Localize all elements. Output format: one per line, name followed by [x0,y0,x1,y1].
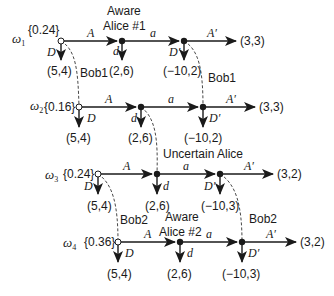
payoff-terminal: (3,3) [240,34,265,48]
alice-node [138,104,144,110]
edge-label-d: d [163,179,170,193]
edge-label-D: D [86,111,96,125]
info-set-label-bob2-left: Bob2 [120,213,148,227]
payoff-D-prime: (−10,2) [163,64,201,78]
row-omega-4: ω4 {0.36} A D (5,4) Aware Alice #2 a d (… [63,210,325,281]
edge-label-D-prime: D′ [203,179,216,193]
alice-label-line2: Alice #2 [159,225,202,239]
info-set-label-uncertain-alice: Uncertain Alice [163,147,243,161]
alice-node [177,239,183,245]
edge-label-D-prime: D′ [208,111,221,125]
edge-label-D: D [83,179,93,193]
edge-label-A: A [143,227,152,241]
edge-label-D-prime: D′ [247,246,260,260]
state-label: ω3 [45,167,58,184]
info-set-label-bob1-left: Bob1 [80,66,108,80]
row-omega-2: ω2 {0.16} A D (5,4) a d (2,6) A′ D′ (−10… [30,92,284,145]
state-label: ω1 [12,31,25,48]
state-prob: {0.24} [28,23,59,37]
game-tree-diagram: Bob1 Bob1 Uncertain Alice Bob2 Bob2 ω1 {… [0,0,334,296]
bob-node [181,38,187,44]
nature-node [95,171,101,177]
nature-node [76,104,82,110]
payoff-D-prime: (−10,2) [184,131,222,145]
payoff-terminal: (3,2) [277,167,302,181]
edge-label-A-prime: A′ [225,92,236,106]
alice-node [119,38,125,44]
payoff-D: (5,4) [107,267,132,281]
nature-node [115,239,121,245]
bob-node [239,239,245,245]
alice-node [154,171,160,177]
edge-label-d: d [131,111,138,125]
edge-label-d: d [187,246,194,260]
payoff-D: (5,4) [87,199,112,213]
payoff-d: (2,6) [167,267,192,281]
edge-label-A: A [122,159,131,173]
payoff-D: (5,4) [47,64,72,78]
payoff-terminal: (3,3) [259,100,284,114]
payoff-d: (2,6) [109,64,134,78]
edge-label-D: D [124,246,134,260]
row-omega-1: ω1 {0.24} A D (5,4) Aware Alice #1 a d (… [12,4,265,78]
state-label: ω4 [63,235,76,252]
state-prob: {0.16} [44,100,75,114]
payoff-terminal: (3,2) [300,235,325,249]
payoff-D: (5,4) [66,131,91,145]
edge-label-A: A [86,26,95,40]
edge-label-A-prime: A′ [265,227,276,241]
payoff-d: (2,6) [128,131,153,145]
edge-label-D-prime: D′ [168,45,181,59]
edge-label-a: a [168,92,174,106]
bob-node [200,104,206,110]
payoff-D-prime: (−10,3) [222,267,260,281]
edge-label-A-prime: A′ [206,26,217,40]
state-prob: {0.36} [84,235,115,249]
state-label: ω2 [30,98,43,115]
edge-label-a: a [183,159,189,173]
edge-label-A: A [104,92,113,106]
info-set-label-bob2-right: Bob2 [249,212,277,226]
info-set-label-bob1-right: Bob1 [208,71,236,85]
edge-label-D: D [46,45,56,59]
alice-label-line2: Alice #1 [103,19,146,33]
nature-node [58,38,64,44]
edge-label-a: a [206,227,212,241]
edge-label-d: d [113,44,120,58]
edge-label-a: a [150,26,156,40]
row-omega-3: ω3 {0.24} A D (5,4) a d (2,6) A′ D′ (−10… [45,159,302,213]
alice-label-line1: Aware [165,210,199,224]
edge-label-A-prime: A′ [243,159,254,173]
bob-node [217,171,223,177]
alice-label-line1: Aware [107,4,141,18]
payoff-D-prime: (−10,3) [201,199,239,213]
